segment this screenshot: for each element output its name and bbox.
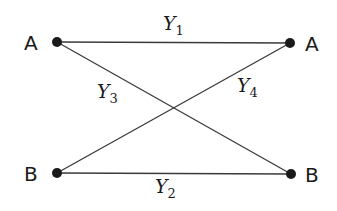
edge-label-y4: Y4 (237, 74, 258, 100)
node-dot-b-left (52, 168, 62, 178)
edge-label-y3: Y3 (97, 80, 118, 106)
crossing-diagram: A A B B Y1 Y2 Y3 Y4 (0, 0, 337, 211)
node-dot-b-right (286, 169, 296, 179)
node-label-b-right: B (305, 163, 319, 187)
edge-label-y2: Y2 (155, 175, 176, 201)
edge-y2 (57, 173, 291, 174)
node-label-a-left: A (24, 31, 38, 55)
node-label-a-right: A (305, 32, 319, 56)
node-dot-a-left (52, 37, 62, 47)
edge-y1 (57, 42, 290, 43)
node-dot-a-right (285, 38, 295, 48)
edge-label-y1: Y1 (163, 12, 184, 38)
node-label-b-left: B (24, 162, 38, 186)
